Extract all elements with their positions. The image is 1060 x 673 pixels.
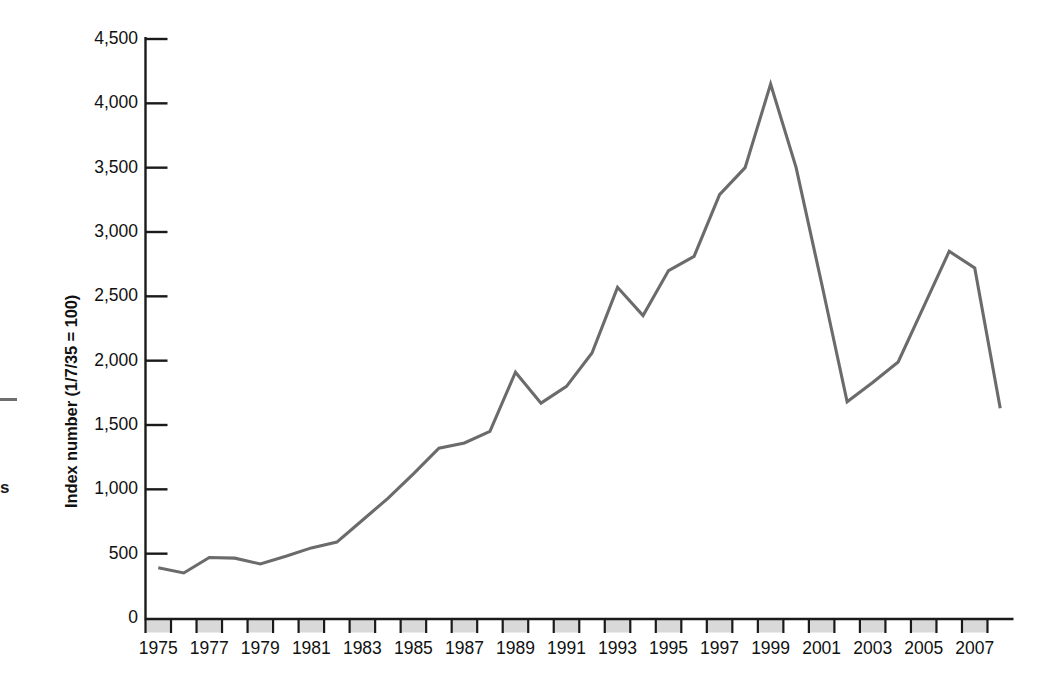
x-axis-band: [452, 620, 478, 633]
x-axis-band: [146, 620, 172, 633]
x-axis-band: [707, 620, 733, 633]
x-axis-band: [197, 620, 223, 633]
x-axis-band: [605, 620, 631, 633]
x-axis-band: [962, 620, 988, 633]
x-axis-band: [401, 620, 427, 633]
x-axis-band: [350, 620, 376, 633]
x-axis-band: [860, 620, 886, 633]
line-chart-plot: [0, 0, 1060, 673]
x-axis-shaded-bands: [146, 620, 988, 633]
x-axis-band: [911, 620, 937, 633]
y-axis-ticks: [146, 39, 168, 554]
chart-page: s Index number (1/7/35 = 100) 05001,0001…: [0, 0, 1060, 673]
x-axis-band: [758, 620, 784, 633]
x-axis-band: [503, 620, 529, 633]
data-series-line: [158, 84, 1000, 573]
x-axis-band: [299, 620, 325, 633]
x-axis-band: [248, 620, 274, 633]
axis-lines: [145, 37, 1014, 619]
x-axis-band: [809, 620, 835, 633]
x-axis-band: [656, 620, 682, 633]
x-axis-band: [554, 620, 580, 633]
